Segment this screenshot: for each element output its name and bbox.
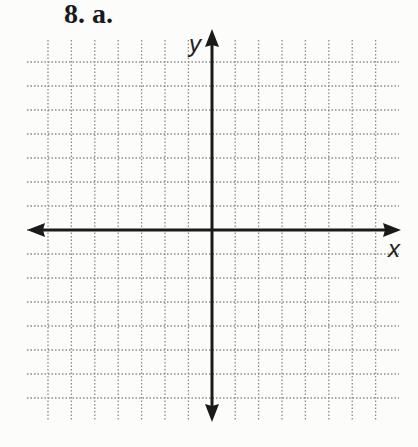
x-axis-label: x [387,235,401,262]
y-axis-bottom-arrow-icon [205,404,219,422]
y-axis-top-arrow-icon [205,29,219,47]
x-axis [27,223,401,237]
y-axis-label: y [187,30,203,57]
coordinate-plane: y x [0,0,418,447]
x-axis-left-arrow-icon [27,223,45,237]
y-axis [205,29,219,422]
